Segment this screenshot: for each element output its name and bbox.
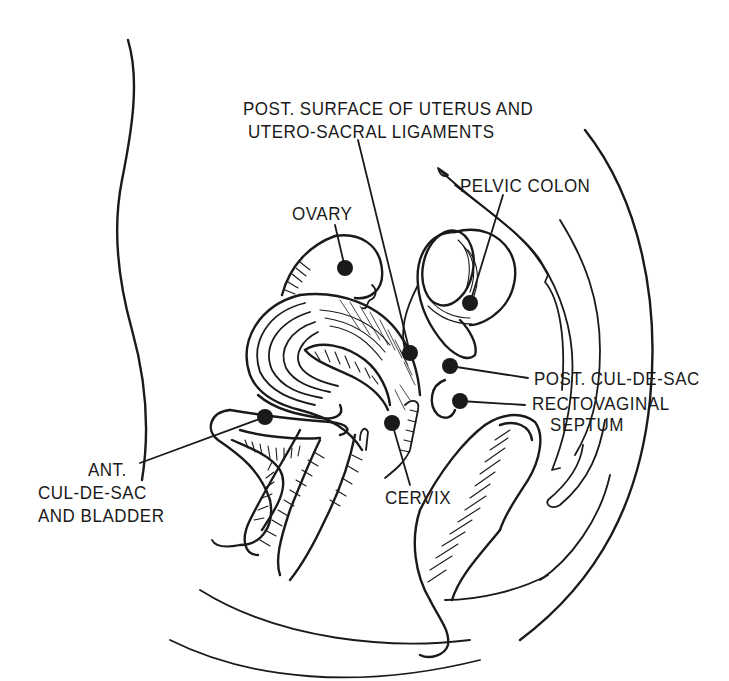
label-post-surface-uterus-line1: POST. SURFACE OF UTERUS AND <box>243 98 533 120</box>
label-ant-cul-de-sac-line2: CUL-DE-SAC <box>38 482 147 504</box>
label-post-surface-uterus-line2: UTERO-SACRAL LIGAMENTS <box>248 121 495 143</box>
ant-cul-de-sac-marker <box>257 409 273 425</box>
label-rectovaginal-septum-line1: RECTOVAGINAL <box>532 393 670 415</box>
label-ovary: OVARY <box>292 203 352 225</box>
rectum-drawing <box>415 380 541 657</box>
pelvic-anatomy-diagram: POST. SURFACE OF UTERUS AND UTERO-SACRAL… <box>0 0 729 681</box>
label-pelvic-colon: PELVIC COLON <box>460 175 590 197</box>
label-ant-cul-de-sac-line1: ANT. <box>88 459 127 481</box>
label-rectovaginal-septum-line2: SEPTUM <box>550 414 624 436</box>
rectovaginal-septum-marker <box>452 393 468 409</box>
pelvic-colon-drawing <box>403 226 515 358</box>
ovary-drawing <box>282 235 382 308</box>
post-cul-de-sac-marker <box>442 358 458 374</box>
label-post-cul-de-sac: POST. CUL-DE-SAC <box>534 368 700 390</box>
post-surface-uterus-marker <box>402 345 418 361</box>
cervix-marker <box>384 415 400 431</box>
ovary-marker <box>337 260 353 276</box>
pelvic-colon-marker <box>462 295 478 311</box>
bladder-drawing <box>211 410 348 546</box>
label-ant-cul-de-sac-line3: AND BLADDER <box>38 505 164 527</box>
label-cervix: CERVIX <box>385 487 451 509</box>
